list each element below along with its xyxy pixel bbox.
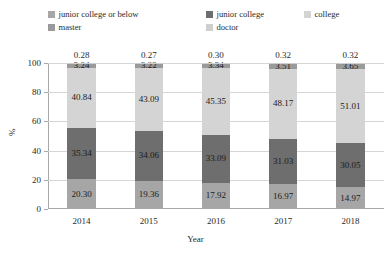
bar-segment[interactable]: 45.35	[202, 68, 230, 134]
stacked-bar[interactable]: 19.3634.0643.093.220.272015	[135, 63, 163, 209]
legend-swatch-icon	[48, 11, 55, 18]
bar-segment-value-label: 51.01	[340, 102, 360, 111]
bar-segment-value-label: 20.30	[71, 190, 91, 199]
bar-segment[interactable]: 14.97	[336, 187, 364, 209]
bar-segment-value-label: 17.92	[206, 191, 226, 200]
bar-segment-value-label: 16.97	[273, 192, 293, 201]
bar-segment[interactable]: 17.92	[202, 183, 230, 209]
legend-item[interactable]: junior college or below	[48, 8, 206, 21]
y-axis-tick-label: 60	[32, 116, 41, 126]
bar-segment[interactable]: 3.34	[202, 63, 230, 68]
y-axis-title: %	[7, 129, 17, 137]
bar-top-value-label: 0.32	[269, 51, 297, 60]
legend-swatch-icon	[48, 24, 55, 31]
y-axis-tick-label: 100	[28, 58, 42, 68]
chart-legend: junior college or belowjunior collegecol…	[48, 8, 348, 34]
bar-segment[interactable]: 20.30	[67, 179, 95, 209]
bar-group: 20.3035.3440.843.240.282014	[48, 63, 115, 209]
legend-item[interactable]: doctor	[206, 21, 304, 34]
x-axis-tick-label: 2017	[269, 216, 297, 226]
legend-item[interactable]: junior college	[206, 8, 304, 21]
bar-segment[interactable]: 35.34	[67, 128, 95, 180]
y-axis-tick-label: 40	[32, 146, 41, 156]
y-axis-tick-label: 20	[32, 175, 41, 185]
bar-segment[interactable]: 16.97	[269, 184, 297, 209]
stacked-bar[interactable]: 20.3035.3440.843.240.282014	[67, 63, 95, 209]
bar-group: 14.9730.0551.013.650.322018	[317, 63, 384, 209]
bar-segment-value-label: 45.35	[206, 97, 226, 106]
bar-segment-value-label: 14.97	[340, 194, 360, 203]
legend-label: doctor	[217, 23, 239, 32]
legend-item[interactable]: master	[48, 21, 206, 34]
bar-top-value-label: 0.28	[67, 51, 95, 60]
bar-segment-value-label: 19.36	[139, 190, 159, 199]
legend-label: junior college	[217, 10, 265, 19]
legend-swatch-icon	[206, 24, 213, 31]
bar-segment-value-label: 35.34	[71, 149, 91, 158]
x-axis-title: Year	[0, 234, 391, 244]
y-axis-tick-label: 80	[32, 87, 41, 97]
legend-label: college	[315, 10, 340, 19]
bar-segment[interactable]: 48.17	[269, 69, 297, 139]
bar-group: 17.9233.0945.353.340.302016	[182, 63, 249, 209]
legend-label: junior college or below	[59, 10, 139, 19]
bar-segment-value-label: 33.09	[206, 154, 226, 163]
bar-segment-value-label: 34.06	[139, 151, 159, 160]
stacked-bar[interactable]: 17.9233.0945.353.340.302016	[202, 63, 230, 209]
x-axis-tick-label: 2014	[67, 216, 95, 226]
bar-segment[interactable]: 3.51	[269, 64, 297, 69]
stacked-bar-chart: junior college or belowjunior collegecol…	[0, 0, 391, 260]
stacked-bar[interactable]: 16.9731.0348.173.510.322017	[269, 63, 297, 209]
bar-top-value-label: 0.32	[336, 51, 364, 60]
bar-segment[interactable]: 31.03	[269, 139, 297, 184]
x-axis-tick-label: 2018	[336, 216, 364, 226]
legend-label: master	[59, 23, 82, 32]
bar-top-value-label: 0.30	[202, 51, 230, 60]
bar-group: 16.9731.0348.173.510.322017	[250, 63, 317, 209]
bar-segment[interactable]: 34.06	[135, 131, 163, 181]
bar-segment[interactable]: 3.22	[135, 63, 163, 68]
bar-segment[interactable]: 30.05	[336, 143, 364, 187]
bar-segment[interactable]: 3.24	[67, 63, 95, 68]
bar-segment-value-label: 31.03	[273, 157, 293, 166]
bar-segment-value-label: 30.05	[340, 161, 360, 170]
plot-area: 02040608010020.3035.3440.843.240.2820141…	[48, 63, 384, 209]
bar-segment[interactable]: 33.09	[202, 135, 230, 183]
y-axis-tick-label: 0	[37, 204, 42, 214]
bar-segment[interactable]: 40.84	[67, 68, 95, 128]
bar-segment-value-label: 40.84	[71, 93, 91, 102]
bar-segment-value-label: 48.17	[273, 99, 293, 108]
bar-segment[interactable]: 51.01	[336, 69, 364, 143]
bar-segment[interactable]: 43.09	[135, 68, 163, 131]
bar-group: 19.3634.0643.093.220.272015	[115, 63, 182, 209]
x-axis-tick-label: 2016	[202, 216, 230, 226]
bar-segment[interactable]: 19.36	[135, 181, 163, 209]
y-axis-tick	[44, 209, 48, 210]
stacked-bar[interactable]: 14.9730.0551.013.650.322018	[336, 63, 364, 209]
legend-item[interactable]: college	[304, 8, 348, 21]
legend-swatch-icon	[206, 11, 213, 18]
legend-swatch-icon	[304, 11, 311, 18]
bar-segment-value-label: 43.09	[139, 95, 159, 104]
bar-segment[interactable]: 3.65	[336, 64, 364, 69]
x-axis-tick-label: 2015	[135, 216, 163, 226]
bar-top-value-label: 0.27	[135, 51, 163, 60]
